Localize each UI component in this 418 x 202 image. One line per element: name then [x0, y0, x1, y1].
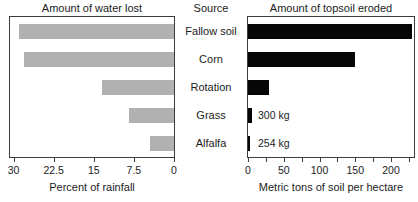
- bar-rotation: [102, 80, 174, 95]
- right-x-axis-tick-label: 200: [382, 165, 400, 176]
- left-x-axis-tick-label: 22.5: [43, 165, 63, 176]
- right-x-axis-tick-label: 100: [311, 165, 329, 176]
- left-x-axis-tick: [54, 158, 55, 162]
- left-x-axis-title: Percent of rainfall: [9, 181, 175, 193]
- left-x-axis-tick: [134, 158, 135, 162]
- right-x-axis-tick-label: 50: [278, 165, 290, 176]
- right-x-axis-tick: [337, 158, 338, 162]
- left-x-axis-tick: [14, 158, 15, 162]
- right-x-axis-tick: [284, 158, 285, 162]
- bar-corn: [248, 52, 355, 67]
- right-x-axis-tick: [409, 158, 410, 162]
- left-x-axis-tick: [94, 158, 95, 162]
- bar-rotation: [248, 80, 269, 95]
- left-x-axis-tick-label: 0: [171, 165, 177, 176]
- right-x-axis-tick: [355, 158, 356, 162]
- bar-value-annotation-alfalfa: 254 kg: [258, 137, 290, 150]
- source-label-rotation: Rotation: [175, 80, 247, 94]
- bar-grass: [129, 108, 174, 123]
- source-label-corn: Corn: [175, 52, 247, 66]
- right-x-axis-tick: [320, 158, 321, 162]
- bar-value-annotation-grass: 300 kg: [258, 109, 290, 122]
- bar-fallow-soil: [19, 24, 174, 39]
- source-label-grass: Grass: [175, 108, 247, 122]
- right-x-axis-tick-label: 150: [346, 165, 364, 176]
- source-label-alfalfa: Alfalfa: [175, 136, 247, 150]
- right-x-axis-tick: [302, 158, 303, 162]
- left-x-axis-tick-label: 30: [8, 165, 20, 176]
- right-x-axis-tick: [248, 158, 249, 162]
- right-x-axis-tick: [391, 158, 392, 162]
- bar-grass: [248, 108, 252, 123]
- left-x-axis-tick-label: 15: [88, 165, 100, 176]
- bar-fallow-soil: [248, 24, 412, 39]
- dual-bar-chart-figure: Amount of water lost Source Amount of to…: [0, 0, 418, 202]
- bar-alfalfa: [150, 136, 174, 151]
- right-x-axis-title: Metric tons of soil per hectare: [247, 181, 415, 193]
- right-x-axis-tick: [373, 158, 374, 162]
- source-column-title: Source: [175, 2, 247, 15]
- left-x-axis-tick: [174, 158, 175, 162]
- source-label-fallow-soil: Fallow soil: [175, 24, 247, 38]
- right-x-axis-tick: [266, 158, 267, 162]
- left-x-axis-tick-label: 7.5: [127, 165, 142, 176]
- right-chart-title: Amount of topsoil eroded: [247, 2, 415, 15]
- left-chart-title: Amount of water lost: [9, 2, 175, 15]
- right-x-axis-tick-label: 0: [245, 165, 251, 176]
- bar-corn: [24, 52, 174, 67]
- bar-alfalfa: [248, 136, 250, 151]
